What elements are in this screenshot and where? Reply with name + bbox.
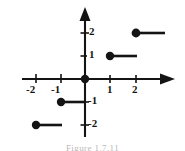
y-tick-label-2: 2 [89,26,95,37]
y-tick-label-minus2: -2 [88,118,97,129]
step-function-figure: -2 -1 1 2 2 1 -1 -2 Figure 1.7.11 [0,0,185,151]
step-segment-plus1 [106,52,137,60]
step-point-origin [81,75,89,83]
x-axis [22,74,175,85]
step-segment-minus2 [32,121,62,129]
step-segment-plus2 [132,29,165,38]
y-tick-label-1: 1 [89,49,95,60]
figure-caption: Figure 1.7.11 [0,143,185,151]
x-tick-label-minus1: -1 [51,84,60,95]
y-tick-label-minus1: -1 [88,95,97,106]
x-tick-label-1: 1 [107,84,113,95]
x-tick-label-2: 2 [132,84,138,95]
step-segment-minus1 [57,98,86,106]
x-tick-label-minus2: -2 [26,84,35,95]
